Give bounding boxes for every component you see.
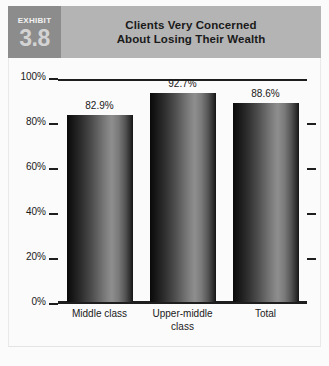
chart-body: 0%20%40%60%80%100% 82.9%92.7%88.6% Middl… — [8, 58, 321, 347]
plot-area: 0%20%40%60%80%100% 82.9%92.7%88.6% — [58, 79, 307, 304]
chart-title-line-2: About Losing Their Wealth — [117, 33, 266, 45]
y-axis-tick-mark-left — [49, 78, 58, 80]
bar-group[interactable]: 92.7% — [150, 93, 216, 302]
x-axis-category-label: Total — [224, 308, 307, 321]
y-axis-tick-mark-right — [307, 258, 316, 260]
x-axis-category-label-line: class — [171, 321, 194, 332]
y-axis-tick-label: 80% — [10, 116, 46, 128]
exhibit-badge: EXHIBIT 3.8 — [8, 6, 61, 58]
y-axis-tick-label: 0% — [10, 296, 46, 308]
y-axis-tick-mark-right — [307, 168, 316, 170]
y-axis-tick-label: 60% — [10, 161, 46, 173]
y-axis-tick-mark-left — [49, 123, 58, 125]
y-axis-tick-mark-left — [49, 303, 58, 305]
y-axis-tick-label: 100% — [10, 71, 46, 83]
x-axis-category-label: Middle class — [58, 308, 141, 321]
exhibit-badge-label: EXHIBIT — [18, 16, 52, 26]
bars-layer: 82.9%92.7%88.6% — [58, 79, 307, 304]
bar-value-label: 88.6% — [206, 88, 326, 100]
y-axis-tick-mark-left — [49, 168, 58, 170]
bar-rect[interactable] — [150, 93, 216, 302]
x-axis-labels: Middle classUpper-middleclassTotal — [58, 308, 307, 344]
x-axis-category-label: Upper-middleclass — [141, 308, 224, 333]
exhibit-card: EXHIBIT 3.8 Clients Very Concerned About… — [0, 0, 329, 366]
y-axis-tick-mark-right — [307, 213, 316, 215]
x-axis-category-label-line: Middle class — [72, 308, 127, 319]
bar-rect[interactable] — [233, 103, 299, 302]
y-axis-tick-label: 20% — [10, 251, 46, 263]
y-axis-tick-mark-left — [49, 213, 58, 215]
chart-title-line-1: Clients Very Concerned — [125, 19, 256, 31]
bar-value-label: 82.9% — [40, 100, 160, 112]
y-axis-tick-mark-right — [307, 123, 316, 125]
y-axis-tick-mark-left — [49, 258, 58, 260]
chart-title-container: Clients Very Concerned About Losing Thei… — [61, 6, 321, 58]
x-axis-category-label-line: Total — [255, 308, 276, 319]
exhibit-badge-number: 3.8 — [19, 26, 49, 50]
x-axis-category-label-line: Upper-middle — [152, 308, 212, 319]
bar-rect[interactable] — [67, 115, 133, 302]
page-title: Clients Very Concerned About Losing Thei… — [117, 18, 266, 46]
bar-group[interactable]: 82.9% — [67, 115, 133, 302]
y-axis-tick-label: 40% — [10, 206, 46, 218]
exhibit-header-band: EXHIBIT 3.8 Clients Very Concerned About… — [8, 6, 321, 58]
bar-group[interactable]: 88.6% — [233, 103, 299, 302]
